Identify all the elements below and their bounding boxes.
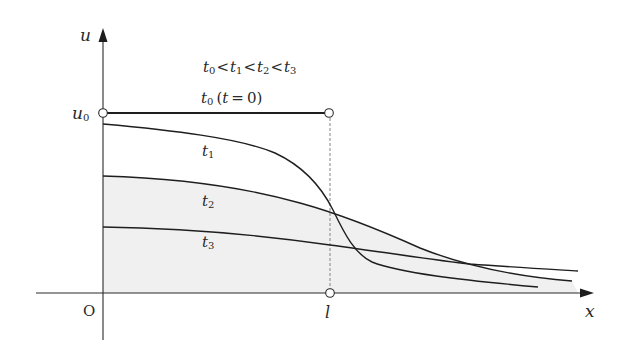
x-axis-label: x (585, 301, 595, 321)
t0-label: t0(t=0) (201, 89, 262, 107)
l-label: l (325, 303, 330, 322)
u0-label: u0 (72, 103, 89, 123)
step-end-point-icon (325, 109, 334, 118)
shaded-region (103, 176, 578, 293)
origin-label: O (83, 302, 95, 320)
t1-label: t1 (202, 142, 214, 160)
time-ordering-label: t0<t1<t2<t3 (203, 58, 296, 76)
u0-point-icon (99, 109, 108, 118)
x-axis-arrow-icon (580, 289, 594, 298)
diffusion-diagram: u x O l u0 t0<t1<t2<t3 t0(t=0) t1 t2 t3 (0, 0, 628, 362)
l-point-icon (326, 289, 335, 298)
y-axis-arrow-icon (99, 28, 108, 42)
y-axis-label: u (80, 25, 91, 45)
